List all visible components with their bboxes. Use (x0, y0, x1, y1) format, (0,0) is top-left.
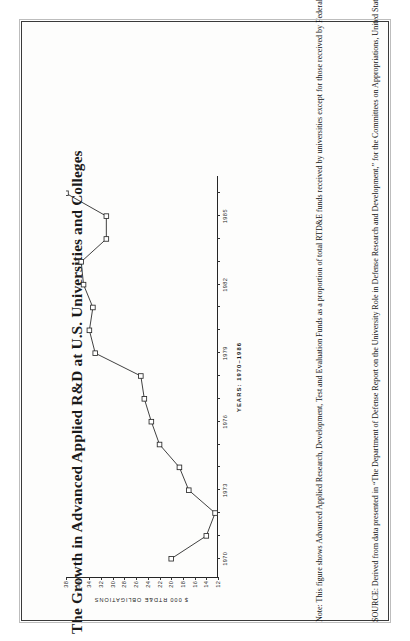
x-tick-mark (217, 329, 220, 330)
y-tick-label: 14 (203, 581, 209, 588)
line-series (66, 175, 218, 577)
x-tick-mark (217, 284, 220, 285)
y-tick-mark (148, 577, 149, 580)
figure-note: Note: This figure shows Advanced Applied… (314, 82, 326, 622)
note-text: Note: This figure shows Advanced Applied… (315, 0, 324, 622)
x-tick-mark (217, 352, 220, 353)
y-tick-mark (183, 577, 184, 580)
y-tick-label: 24 (145, 581, 151, 588)
x-axis-title: YEARS: 1970–1986 (236, 176, 242, 578)
y-tick-label: 20 (168, 581, 174, 588)
x-tick-label: 1982 (222, 278, 228, 292)
y-tick-mark (218, 577, 219, 580)
x-tick-mark (217, 261, 220, 262)
chart-container: 3836343230282624222018161412197019731976… (60, 152, 265, 622)
x-tick-mark (217, 444, 220, 445)
y-tick-label: 28 (121, 581, 127, 588)
y-axis-title: $ 000 RTD&E OBLIGATIONS (41, 597, 241, 603)
y-tick-label: 38 (63, 581, 69, 588)
y-tick-label: 30 (110, 581, 116, 588)
y-tick-label: 26 (133, 581, 139, 588)
y-tick-mark (136, 577, 137, 580)
y-tick-mark (89, 577, 90, 580)
x-tick-mark (217, 558, 220, 559)
x-tick-mark (217, 192, 220, 193)
y-tick-mark (101, 577, 102, 580)
y-tick-mark (113, 577, 114, 580)
x-tick-label: 1979 (222, 346, 228, 360)
page-frame: The Growth in Advanced Applied R&D at U.… (21, 21, 389, 621)
y-tick-mark (78, 577, 79, 580)
x-tick-mark (217, 535, 220, 536)
x-tick-mark (217, 215, 220, 216)
x-tick-label: 1970 (222, 552, 228, 566)
y-tick-label: 12 (215, 581, 221, 588)
x-tick-mark (217, 238, 220, 239)
y-tick-mark (195, 577, 196, 580)
y-tick-label: 16 (192, 581, 198, 588)
x-tick-mark (217, 421, 220, 422)
y-tick-mark (171, 577, 172, 580)
x-tick-mark (217, 466, 220, 467)
y-tick-label: 32 (98, 581, 104, 588)
y-tick-mark (206, 577, 207, 580)
x-tick-mark (217, 512, 220, 513)
x-tick-label: 1973 (222, 483, 228, 497)
y-tick-mark (160, 577, 161, 580)
x-tick-label: 1976 (222, 415, 228, 429)
y-tick-mark (124, 577, 125, 580)
x-tick-label: 1985 (222, 209, 228, 223)
y-tick-mark (66, 577, 67, 580)
y-tick-label: 36 (75, 581, 81, 588)
y-tick-label: 34 (86, 581, 92, 588)
source-text: SOURCE: Derived from data presented in “… (371, 0, 380, 622)
plot-area: 3836343230282624222018161412197019731976… (66, 176, 218, 578)
x-tick-mark (217, 398, 220, 399)
y-tick-label: 22 (157, 581, 163, 588)
figure-source: SOURCE: Derived from data presented in “… (370, 82, 382, 622)
x-tick-mark (217, 306, 220, 307)
x-tick-mark (217, 375, 220, 376)
x-tick-mark (217, 489, 220, 490)
y-tick-label: 18 (180, 581, 186, 588)
